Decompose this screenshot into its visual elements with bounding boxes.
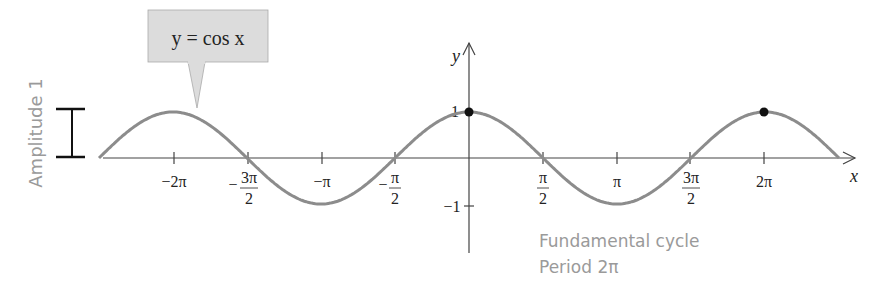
tick-pi2-num: π xyxy=(539,169,547,186)
point-max-2pi xyxy=(760,108,769,117)
x-axis: x xyxy=(103,152,858,186)
x-axis-label: x xyxy=(849,166,858,186)
tick-3pi2-num: 3π xyxy=(683,169,699,186)
y-tick-neg1: −1 xyxy=(443,198,460,215)
tick-neg-pi2-den: 2 xyxy=(391,190,399,207)
tick-2pi: 2π xyxy=(756,173,772,190)
tick-neg-pi2-num: π xyxy=(391,169,399,186)
tick-neg-pi: −π xyxy=(313,173,330,190)
callout-label: y = cos x xyxy=(172,27,245,50)
x-tick-labels: −2π − 3π 2 −π − π 2 π 2 π 3π 2 2π xyxy=(161,169,772,207)
tick-neg-3pi2-minus: − xyxy=(228,176,237,193)
tick-neg-3pi2-num: 3π xyxy=(241,169,257,186)
tick-neg-2pi: −2π xyxy=(161,173,186,190)
y-axis: y 1 −1 xyxy=(443,43,475,253)
amplitude-label: Amplitude 1 xyxy=(25,78,46,187)
y-tick-1: 1 xyxy=(451,103,459,120)
function-callout: y = cos x xyxy=(148,10,268,108)
period-label: Period 2π xyxy=(539,257,618,277)
cosine-chart: y = cos x Amplitude 1 x y 1 −1 −2π − 3 xyxy=(0,0,874,297)
amplitude-marker: Amplitude 1 xyxy=(25,78,85,187)
tick-neg-3pi2-den: 2 xyxy=(245,190,253,207)
tick-neg-pi2-minus: − xyxy=(378,176,387,193)
y-axis-label: y xyxy=(450,46,460,66)
tick-pi2-den: 2 xyxy=(539,190,547,207)
tick-3pi2-den: 2 xyxy=(687,190,695,207)
tick-pi: π xyxy=(613,173,621,190)
cycle-label: Fundamental cycle xyxy=(539,231,700,251)
point-max-0 xyxy=(465,108,474,117)
